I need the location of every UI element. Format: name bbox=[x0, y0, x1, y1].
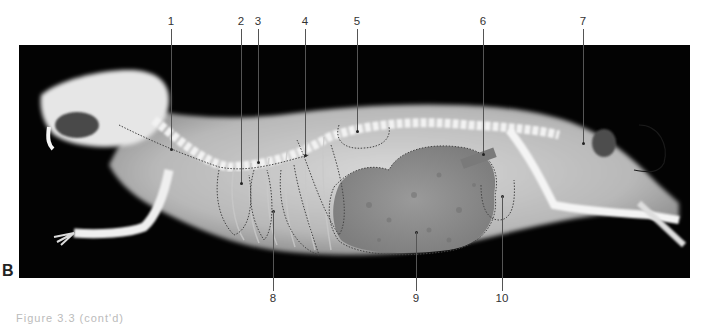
label-8: 8 bbox=[270, 292, 276, 304]
leader-line-7 bbox=[583, 29, 584, 143]
leader-line-10 bbox=[502, 196, 503, 291]
label-5: 5 bbox=[354, 15, 360, 27]
pointer-dot-2 bbox=[240, 182, 243, 185]
pointer-dot-3 bbox=[257, 161, 260, 164]
pointer-dot-1 bbox=[170, 148, 173, 151]
pointer-dot-6 bbox=[482, 153, 485, 156]
panel-letter: B bbox=[2, 262, 14, 280]
leader-line-2 bbox=[241, 29, 242, 183]
leader-line-1 bbox=[171, 29, 172, 149]
label-10: 10 bbox=[496, 292, 509, 304]
leader-line-3 bbox=[258, 29, 259, 162]
leader-line-5 bbox=[357, 29, 358, 131]
label-2: 2 bbox=[238, 15, 244, 27]
radiograph-image bbox=[19, 45, 690, 278]
label-1: 1 bbox=[168, 15, 174, 27]
label-7: 7 bbox=[580, 15, 586, 27]
figure-caption: Figure 3.3 (cont'd) bbox=[16, 312, 124, 324]
label-4: 4 bbox=[302, 15, 308, 27]
pointer-dot-7 bbox=[582, 142, 585, 145]
label-3: 3 bbox=[255, 15, 261, 27]
pointer-dot-4 bbox=[304, 154, 307, 157]
leader-line-8 bbox=[273, 211, 274, 291]
radiograph-panel bbox=[19, 45, 690, 278]
label-6: 6 bbox=[480, 15, 486, 27]
label-9: 9 bbox=[413, 292, 419, 304]
leader-line-4 bbox=[305, 29, 306, 155]
leader-line-6 bbox=[483, 29, 484, 154]
pointer-dot-5 bbox=[356, 130, 359, 133]
leader-line-9 bbox=[416, 232, 417, 291]
